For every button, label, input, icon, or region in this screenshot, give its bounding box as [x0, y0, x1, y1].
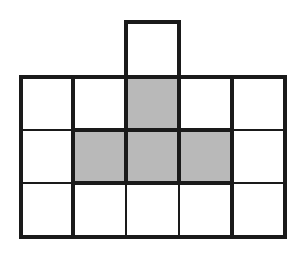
shaded-cell: [179, 130, 232, 183]
shaded-cell: [126, 130, 179, 183]
shaded-cell: [126, 77, 179, 130]
shaded-cell: [73, 130, 126, 183]
grid-diagram: [0, 0, 297, 255]
